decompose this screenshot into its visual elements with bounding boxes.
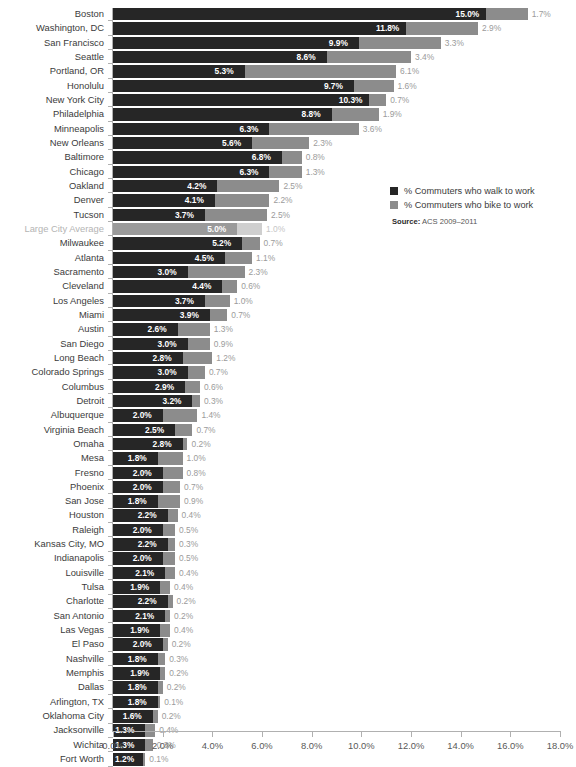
bar-value-walk: 6.3% — [239, 166, 258, 178]
bar-value-bike: 0.9% — [214, 338, 233, 350]
bar-value-walk: 1.8% — [128, 452, 147, 464]
x-axis-tick — [461, 732, 462, 737]
table-row: 1.8%1.0% — [113, 452, 560, 464]
bar-walk — [113, 8, 486, 20]
bar-bike — [369, 94, 386, 106]
bar-bike — [158, 452, 183, 464]
bar-value-bike: 3.6% — [363, 123, 382, 135]
category-label: Nashville — [0, 653, 107, 665]
bar-value-bike: 0.7% — [390, 94, 409, 106]
bar-value-bike: 0.6% — [241, 280, 260, 292]
bar-bike — [163, 552, 175, 564]
bar-value-bike: 1.7% — [532, 8, 551, 20]
bar-value-bike: 1.3% — [214, 323, 233, 335]
bar-value-walk: 2.2% — [138, 595, 157, 607]
bar-value-walk: 1.9% — [130, 624, 149, 636]
category-label: Washington, DC — [0, 22, 107, 34]
bar-value-walk: 1.6% — [123, 710, 142, 722]
bar-value-walk: 4.5% — [195, 252, 214, 264]
x-axis-tick — [212, 732, 213, 737]
category-label: Memphis — [0, 667, 107, 679]
table-row: 2.0%0.8% — [113, 467, 560, 479]
category-label: Seattle — [0, 51, 107, 63]
bar-value-walk: 2.0% — [133, 552, 152, 564]
bar-value-walk: 2.1% — [135, 567, 154, 579]
bar-value-walk: 2.9% — [155, 381, 174, 393]
legend-item-bike: % Commuters who bike to work — [390, 200, 535, 210]
x-axis-tick-label: 4.0% — [202, 740, 223, 751]
x-axis-tick-label: 8.0% — [301, 740, 322, 751]
legend: % Commuters who walk to work % Commuters… — [390, 186, 535, 214]
table-row: 3.2%0.3% — [113, 395, 560, 407]
bar-bike — [188, 338, 210, 350]
bar-value-walk: 6.3% — [239, 123, 258, 135]
bar-bike — [163, 481, 180, 493]
bar-value-bike: 0.5% — [179, 552, 198, 564]
bar-value-bike: 0.2% — [192, 438, 211, 450]
bar-value-bike: 1.0% — [187, 452, 206, 464]
table-row: 1.3%0.3% — [113, 739, 560, 751]
bar-value-walk: 11.8% — [376, 22, 399, 34]
bar-value-bike: 0.9% — [184, 495, 203, 507]
bar-value-bike: 6.1% — [400, 65, 419, 77]
bar-bike — [185, 381, 200, 393]
legend-swatch-bike-icon — [390, 201, 398, 209]
table-row: 1.8%0.9% — [113, 495, 560, 507]
bar-value-walk: 5.6% — [222, 137, 241, 149]
table-row: 2.0%0.2% — [113, 638, 560, 650]
category-label: Tulsa — [0, 581, 107, 593]
source-label: Source: — [392, 217, 420, 226]
table-row: 1.2%0.1% — [113, 753, 560, 765]
category-label: San Diego — [0, 338, 107, 350]
table-row: 11.8%2.9% — [113, 22, 560, 34]
legend-item-walk: % Commuters who walk to work — [390, 186, 535, 196]
bar-bike — [168, 595, 173, 607]
bar-value-bike: 0.2% — [174, 610, 193, 622]
category-label: Denver — [0, 194, 107, 206]
bar-value-bike: 0.6% — [204, 381, 223, 393]
bar-bike — [192, 395, 199, 407]
bar-walk — [113, 94, 369, 106]
category-label: Omaha — [0, 438, 107, 450]
table-row: 10.3%0.7% — [113, 94, 560, 106]
bar-value-walk: 8.6% — [297, 51, 316, 63]
bar-value-bike: 2.2% — [273, 194, 292, 206]
bar-value-bike: 1.2% — [216, 352, 235, 364]
bar-value-bike: 0.1% — [149, 753, 168, 765]
bar-value-bike: 0.2% — [172, 638, 191, 650]
bar-value-walk: 5.0% — [207, 223, 226, 235]
category-label: Sacramento — [0, 266, 107, 278]
bar-bike — [486, 8, 528, 20]
category-label: Raleigh — [0, 524, 107, 536]
bar-bike — [222, 280, 237, 292]
bar-walk — [113, 22, 406, 34]
category-label: San Antonio — [0, 610, 107, 622]
x-axis-line — [112, 731, 561, 732]
table-row: 6.3%3.6% — [113, 123, 560, 135]
bar-bike — [205, 209, 267, 221]
bar-bike — [158, 653, 165, 665]
bar-value-bike: 0.3% — [204, 395, 223, 407]
bar-rows: 15.0%1.7%11.8%2.9%9.9%3.3%8.6%3.4%5.3%6.… — [113, 8, 560, 767]
bar-value-walk: 15.0% — [456, 8, 480, 20]
category-label: Milwaukee — [0, 237, 107, 249]
table-row: 5.3%6.1% — [113, 65, 560, 77]
bar-bike — [210, 309, 227, 321]
plot-area: 15.0%1.7%11.8%2.9%9.9%3.3%8.6%3.4%5.3%6.… — [113, 8, 560, 731]
bar-value-bike: 1.3% — [306, 166, 325, 178]
table-row: 2.8%1.2% — [113, 352, 560, 364]
bar-value-bike: 1.0% — [234, 295, 253, 307]
bar-value-walk: 10.3% — [339, 94, 363, 106]
bar-value-bike: 2.9% — [482, 22, 501, 34]
category-label: Las Vegas — [0, 624, 107, 636]
bar-value-bike: 0.4% — [174, 624, 193, 636]
bar-value-bike: 2.5% — [283, 180, 302, 192]
bar-value-bike: 1.1% — [256, 252, 275, 264]
bar-value-bike: 3.3% — [445, 37, 464, 49]
category-label: Virginia Beach — [0, 424, 107, 436]
table-row: 6.8%0.8% — [113, 151, 560, 163]
bar-bike — [165, 610, 170, 622]
bar-value-bike: 0.5% — [179, 524, 198, 536]
bar-walk — [113, 424, 175, 436]
bar-value-walk: 9.9% — [329, 37, 348, 49]
